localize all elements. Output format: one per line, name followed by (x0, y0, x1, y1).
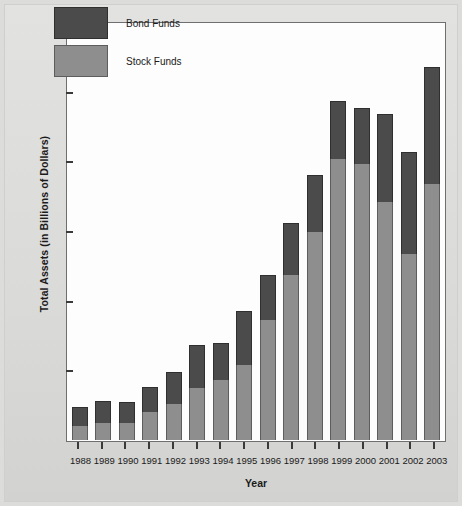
bar-segment-stock-funds (236, 365, 252, 440)
x-axis-tick-label: 1999 (331, 455, 347, 466)
bar-segment-stock-funds (283, 275, 299, 440)
bar-column (283, 24, 299, 440)
chart-figure: Total Assets (in Billions of Dollars) 60… (0, 0, 462, 506)
x-axis-tick-mark (117, 442, 133, 451)
legend-swatch-stock-funds (54, 45, 108, 77)
x-axis-tick-label: 2001 (379, 455, 395, 466)
bar-column (166, 24, 182, 440)
legend-entry: Bond Funds (54, 6, 234, 40)
x-axis-tick-label: 1997 (284, 455, 300, 466)
bar-column (213, 24, 229, 440)
x-axis-ticks (66, 442, 446, 451)
bar-column (142, 24, 158, 440)
y-axis-tick-mark (66, 231, 73, 233)
bar-segment-bond-funds (354, 108, 370, 164)
x-axis-tick-mark (141, 442, 157, 451)
bar-column (189, 24, 205, 440)
bar-column (95, 24, 111, 440)
bar-segment-bond-funds (213, 343, 229, 380)
x-axis-tick-label: 1996 (260, 455, 276, 466)
bar-segment-bond-funds (72, 407, 88, 427)
bar-segment-stock-funds (189, 388, 205, 440)
x-axis-tick-label: 1995 (236, 455, 252, 466)
x-axis-tick-label: 2002 (402, 455, 418, 466)
bar-segment-bond-funds (307, 175, 323, 233)
bar-segment-stock-funds (213, 380, 229, 440)
x-axis-tick-mark (165, 442, 181, 451)
bar-segment-stock-funds (307, 232, 323, 440)
bar-segment-stock-funds (166, 404, 182, 440)
chart-legend: Bond FundsStock Funds (54, 6, 234, 82)
x-axis-title: Year (66, 477, 446, 489)
y-axis-tick-mark (66, 301, 73, 303)
x-axis-tick-mark (402, 442, 418, 451)
x-axis-tick-mark (284, 442, 300, 451)
x-axis-tick-label: 2000 (355, 455, 371, 466)
bar-segment-stock-funds (72, 426, 88, 440)
x-axis-tick-label: 2003 (426, 455, 442, 466)
bar-column (401, 24, 417, 440)
bar-column (119, 24, 135, 440)
bar-segment-bond-funds (330, 101, 346, 159)
x-axis-tick-mark (307, 442, 323, 451)
bar-segment-stock-funds (424, 184, 440, 440)
bar-segment-bond-funds (283, 223, 299, 275)
bar-segment-bond-funds (189, 345, 205, 388)
x-axis-tick-label: 1998 (307, 455, 323, 466)
bar-segment-stock-funds (401, 254, 417, 440)
x-axis-tick-mark (331, 442, 347, 451)
x-axis-tick-label: 1989 (94, 455, 110, 466)
y-axis-title: Total Assets (in Billions of Dollars) (38, 74, 50, 374)
y-axis-tick-mark (66, 370, 73, 372)
bar-segment-bond-funds (377, 114, 393, 202)
y-axis-tick-mark (66, 161, 73, 163)
x-axis-tick-label: 1994 (212, 455, 228, 466)
plot-area (66, 22, 446, 442)
x-axis-tick-mark (260, 442, 276, 451)
bar-group (68, 24, 444, 440)
x-axis-tick-mark (94, 442, 110, 451)
bar-segment-bond-funds (142, 387, 158, 411)
x-axis-tick-mark (70, 442, 86, 451)
legend-swatch-bond-funds (54, 7, 108, 39)
x-axis-tick-mark (189, 442, 205, 451)
bar-segment-stock-funds (330, 159, 346, 440)
bar-column (260, 24, 276, 440)
bar-segment-bond-funds (424, 67, 440, 184)
legend-entry: Stock Funds (54, 44, 234, 78)
x-axis-tick-mark (212, 442, 228, 451)
legend-label: Bond Funds (126, 18, 180, 29)
bar-segment-stock-funds (95, 423, 111, 440)
x-axis-tick-label: 1990 (117, 455, 133, 466)
bar-column (330, 24, 346, 440)
x-axis-tick-label: 1988 (70, 455, 86, 466)
x-axis-tick-mark (355, 442, 371, 451)
x-axis-tick-mark (379, 442, 395, 451)
bar-segment-stock-funds (377, 202, 393, 440)
x-axis-tick-mark (426, 442, 442, 451)
x-axis-tick-label: 1993 (189, 455, 205, 466)
bar-segment-stock-funds (354, 164, 370, 440)
x-axis-tick-label: 1992 (165, 455, 181, 466)
x-axis-tick-mark (236, 442, 252, 451)
bar-column (424, 24, 440, 440)
legend-label: Stock Funds (126, 56, 182, 67)
bar-column (236, 24, 252, 440)
bar-segment-bond-funds (119, 402, 135, 423)
bar-segment-bond-funds (166, 372, 182, 404)
bar-segment-bond-funds (95, 401, 111, 423)
x-axis-labels: 1988198919901991199219931994199519961997… (66, 455, 446, 466)
bar-column (377, 24, 393, 440)
bar-column (72, 24, 88, 440)
bar-segment-stock-funds (260, 320, 276, 440)
bar-segment-stock-funds (142, 412, 158, 440)
bar-column (307, 24, 323, 440)
x-axis-tick-label: 1991 (141, 455, 157, 466)
y-axis-tick-mark (66, 92, 73, 94)
bar-column (354, 24, 370, 440)
bar-segment-stock-funds (119, 423, 135, 440)
bar-segment-bond-funds (401, 152, 417, 254)
bar-segment-bond-funds (236, 311, 252, 365)
bar-segment-bond-funds (260, 275, 276, 320)
